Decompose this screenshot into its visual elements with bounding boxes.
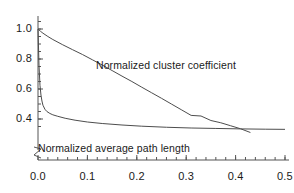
x-tick-label: 0.1 (72, 170, 102, 182)
y-tick-label: 0.6 (6, 82, 32, 94)
chart-figure: 1.0 0.8 0.6 0.4 0.0 0.1 0.2 0.3 0.4 0.5 … (0, 0, 294, 193)
x-tick-label: 0.4 (221, 170, 251, 182)
y-tick-label: 1.0 (6, 22, 32, 34)
series-annotation-cluster-coefficient: Normalized cluster coefficient (96, 59, 236, 71)
y-tick-label: 0.4 (6, 112, 32, 124)
chart-series-lines (38, 29, 285, 133)
x-tick-label: 0.2 (122, 170, 152, 182)
y-tick-label: 0.8 (6, 52, 32, 64)
x-tick-label: 0.0 (23, 170, 53, 182)
x-tick-label: 0.3 (171, 170, 201, 182)
series-annotation-average-path-length: Normalized average path length (38, 142, 190, 154)
chart-plot-area (0, 0, 294, 193)
chart-axes (38, 16, 289, 160)
x-tick-label: 0.5 (270, 170, 294, 182)
